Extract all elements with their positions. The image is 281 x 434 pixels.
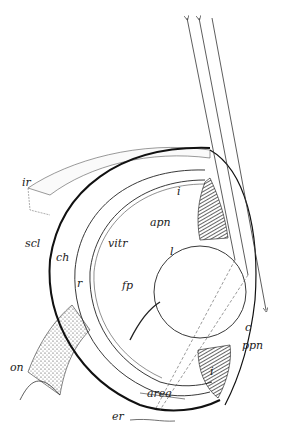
eye-diagram — [0, 0, 281, 434]
upper-iris-region — [198, 178, 228, 240]
label-area: area — [147, 388, 172, 399]
label-r: r — [77, 278, 82, 289]
label-ppn: ppn — [242, 340, 263, 351]
label-er: er — [112, 411, 124, 422]
label-i-lower: i — [210, 366, 214, 377]
label-ch: ch — [56, 252, 69, 263]
label-ir: ir — [22, 177, 31, 188]
label-on: on — [10, 362, 24, 373]
fovea-pit — [130, 302, 160, 340]
label-fp: fp — [122, 280, 133, 291]
label-scl: scl — [25, 238, 40, 249]
iris — [28, 147, 210, 195]
lens — [154, 246, 246, 338]
label-vitr: vitr — [108, 238, 127, 249]
label-c: c — [245, 322, 251, 333]
label-l: l — [170, 246, 174, 257]
label-i-upper: i — [177, 186, 181, 197]
label-apn: apn — [150, 217, 171, 228]
lower-iris-region — [198, 345, 231, 398]
